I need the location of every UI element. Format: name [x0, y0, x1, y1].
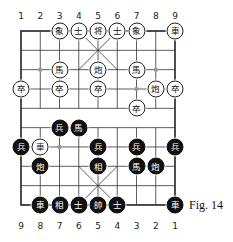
- white-piece: 車: [32, 138, 49, 155]
- black-piece: 炮: [32, 158, 49, 175]
- white-piece: 卒: [90, 80, 107, 97]
- black-piece: 車: [167, 196, 184, 213]
- bottom-file-label: 2: [153, 221, 159, 231]
- black-piece: 兵: [51, 119, 68, 136]
- top-file-label: 2: [37, 11, 43, 21]
- bottom-file-label: 8: [37, 221, 43, 231]
- black-piece: 馬: [70, 119, 87, 136]
- black-piece: 車: [32, 196, 49, 213]
- white-piece: 士: [109, 23, 126, 40]
- white-piece: 卒: [128, 100, 145, 117]
- white-piece: 士: [70, 23, 87, 40]
- black-piece: 兵: [90, 138, 107, 155]
- black-piece: 兵: [167, 138, 184, 155]
- bottom-file-label: 9: [18, 221, 24, 231]
- black-piece: 炮: [147, 158, 164, 175]
- white-piece: 炮: [90, 61, 107, 78]
- white-piece: 車: [167, 23, 184, 40]
- top-file-label: 9: [172, 11, 178, 21]
- black-piece: 帥: [90, 196, 107, 213]
- white-piece: 炮: [147, 80, 164, 97]
- top-file-label: 4: [76, 11, 82, 21]
- figure-label: Fig. 14: [189, 198, 223, 213]
- bottom-file-label: 5: [95, 221, 101, 231]
- bottom-file-label: 6: [76, 221, 82, 231]
- black-piece: 馬: [128, 158, 145, 175]
- white-piece: 象: [128, 23, 145, 40]
- white-piece: 象: [51, 23, 68, 40]
- bottom-file-label: 3: [134, 221, 140, 231]
- black-piece: 相: [90, 158, 107, 175]
- black-piece: 士: [70, 196, 87, 213]
- black-piece: 相: [51, 196, 68, 213]
- xiangqi-board: 123456789987654321 象士将士象車馬炮馬卒卒卒炮卒卒兵馬兵車兵兵…: [0, 0, 233, 242]
- top-file-label: 7: [134, 11, 140, 21]
- white-piece: 卒: [167, 80, 184, 97]
- white-piece: 馬: [128, 61, 145, 78]
- top-file-label: 1: [18, 11, 24, 21]
- white-piece: 馬: [51, 61, 68, 78]
- bottom-file-label: 7: [57, 221, 63, 231]
- top-file-label: 8: [153, 11, 159, 21]
- white-piece: 卒: [13, 80, 30, 97]
- top-file-label: 5: [95, 11, 101, 21]
- white-piece: 卒: [51, 80, 68, 97]
- top-file-label: 6: [114, 11, 120, 21]
- bottom-file-label: 1: [172, 221, 178, 231]
- white-piece: 将: [90, 23, 107, 40]
- black-piece: 兵: [13, 138, 30, 155]
- black-piece: 士: [109, 196, 126, 213]
- bottom-file-label: 4: [114, 221, 120, 231]
- black-piece: 兵: [128, 138, 145, 155]
- top-file-label: 3: [57, 11, 63, 21]
